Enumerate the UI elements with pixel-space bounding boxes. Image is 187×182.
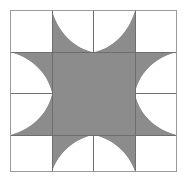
center-square-patch: [52, 52, 135, 135]
corner-southwest-patch: [10, 135, 52, 177]
corner-southeast-patch: [135, 135, 177, 177]
corner-northeast-patch: [135, 10, 177, 52]
quilt-block-canvas: [0, 0, 187, 182]
quilt-block-figure: [0, 0, 187, 182]
corner-northwest-patch: [10, 10, 52, 52]
